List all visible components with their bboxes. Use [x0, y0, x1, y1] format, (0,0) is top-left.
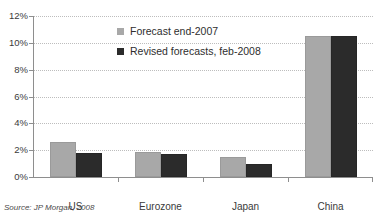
legend-item[interactable]: Forecast end-2007 [117, 21, 297, 41]
legend-item[interactable]: Revised forecasts, feb-2008 [117, 41, 297, 61]
bar [50, 142, 76, 177]
legend-swatch [117, 48, 124, 55]
y-tick-mark [29, 70, 33, 71]
bar [305, 36, 331, 177]
bar [331, 36, 357, 177]
bar [246, 164, 272, 177]
bar [135, 152, 161, 177]
y-tick-mark [29, 43, 33, 44]
y-tick-mark [29, 150, 33, 151]
chart-legend: Forecast end-2007Revised forecasts, feb-… [117, 21, 297, 61]
y-tick-label: 0% [14, 172, 28, 182]
bar [161, 154, 187, 177]
x-tick-mark [203, 177, 204, 182]
legend-swatch [117, 28, 124, 35]
bar [76, 153, 102, 177]
legend-label: Revised forecasts, feb-2008 [130, 46, 261, 57]
x-tick-mark [372, 177, 373, 182]
y-tick-label: 2% [14, 145, 28, 155]
x-tick-label: Japan [232, 202, 259, 212]
y-tick-label: 4% [14, 119, 28, 129]
y-tick-mark [29, 177, 33, 178]
y-tick-label: 10% [9, 38, 28, 48]
source-note: Source: JP Morgan, 2008 [4, 204, 94, 212]
legend-label: Forecast end-2007 [130, 26, 218, 37]
gridline [34, 16, 373, 17]
x-tick-label: China [317, 202, 343, 212]
x-tick-mark [118, 177, 119, 182]
y-tick-label: 8% [14, 65, 28, 75]
y-tick-label: 6% [14, 92, 28, 102]
y-tick-mark [29, 123, 33, 124]
y-tick-mark [29, 16, 33, 17]
x-tick-label: Eurozone [139, 202, 182, 212]
x-tick-mark [288, 177, 289, 182]
bar [220, 157, 246, 177]
y-tick-mark [29, 97, 33, 98]
y-tick-label: 12% [9, 11, 28, 21]
chart-figure: 0%2%4%6%8%10%12% USEurozoneJapanChina Fo… [0, 0, 380, 218]
